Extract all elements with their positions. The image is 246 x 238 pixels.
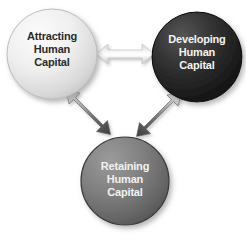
- human-capital-diagram: Attracting Human Capital Developing Huma…: [0, 0, 246, 238]
- node-retaining-circle: [81, 137, 169, 225]
- node-developing-circle: [152, 12, 242, 102]
- connector-attracting-retaining: [66, 90, 111, 135]
- diagram-canvas: [0, 0, 246, 238]
- connector-attracting-developing: [96, 44, 154, 64]
- node-attracting-human-capital: [7, 9, 97, 99]
- node-retaining-human-capital: [81, 137, 169, 225]
- connector-developing-retaining: [137, 92, 183, 137]
- node-developing-human-capital: [152, 12, 242, 102]
- node-attracting-circle: [7, 9, 97, 99]
